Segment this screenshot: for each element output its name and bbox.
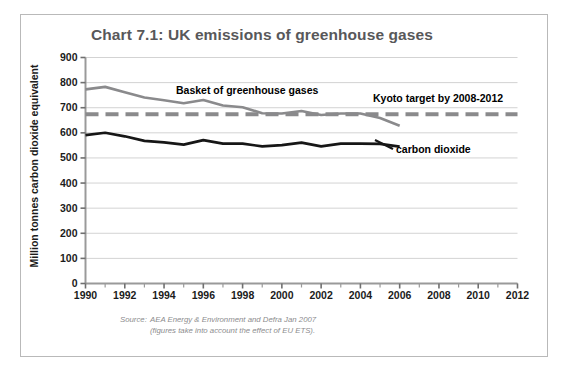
source-note-line1: AEA Energy & Environment and Defra Jan 2…: [150, 315, 316, 324]
x-axis-tick-label: 2004: [340, 289, 380, 301]
x-axis-tick-label: 1992: [105, 289, 145, 301]
series-label-kyoto-target: Kyoto target by 2008-2012: [373, 92, 503, 104]
x-axis-tick-label: 1994: [144, 289, 184, 301]
y-axis-tick-label: 800: [44, 76, 78, 88]
y-axis-tick-label: 600: [44, 126, 78, 138]
y-axis-tick-label: 500: [44, 151, 78, 163]
x-axis-tick-label: 2006: [380, 289, 420, 301]
y-axis-tick-label: 700: [44, 101, 78, 113]
y-axis-tick-label: 300: [44, 202, 78, 214]
x-axis-tick-label: 1996: [183, 289, 223, 301]
chart-figure: Chart 7.1: UK emissions of greenhouse ga…: [0, 0, 565, 371]
source-note: Source:AEA Energy & Environment and Defr…: [120, 315, 316, 336]
x-axis-tick-label: 2002: [301, 289, 341, 301]
x-axis-tick-label: 1998: [223, 289, 263, 301]
series-label-carbon-dioxide: carbon dioxide: [396, 143, 471, 155]
y-axis-tick-label: 0: [44, 277, 78, 289]
source-note-line2: (figures take into account the effect of…: [120, 326, 316, 337]
x-axis-tick-label: 2000: [262, 289, 302, 301]
x-axis-tick-label: 1990: [66, 289, 106, 301]
y-axis-tick-label: 900: [44, 51, 78, 63]
y-axis-tick-label: 100: [44, 252, 78, 264]
series-label-basket: Basket of greenhouse gases: [176, 84, 318, 96]
x-axis-tick-label: 2012: [498, 289, 538, 301]
y-axis-tick-label: 400: [44, 177, 78, 189]
x-axis-tick-label: 2008: [419, 289, 459, 301]
series-line-carbon-dioxide: [86, 133, 400, 147]
y-axis-tick-label: 200: [44, 227, 78, 239]
x-axis-tick-label: 2010: [458, 289, 498, 301]
source-note-label: Source:: [120, 315, 150, 326]
